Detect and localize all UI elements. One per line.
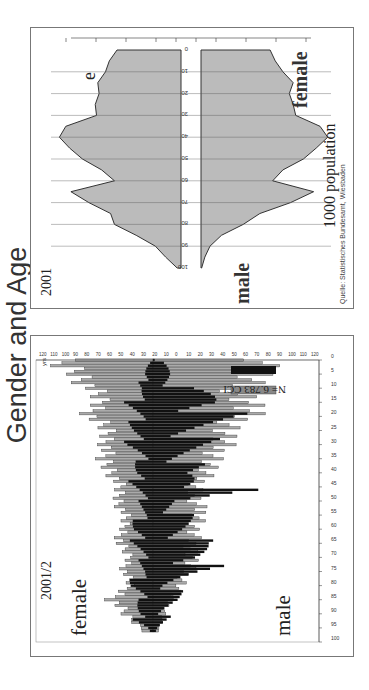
svg-text:25: 25	[331, 424, 337, 430]
svg-text:100: 100	[177, 264, 188, 270]
svg-text:110: 110	[300, 352, 308, 357]
x-axis-label: 1000 population	[321, 124, 339, 228]
svg-text:N= 6.783 CCI: N= 6.783 CCI	[223, 384, 286, 396]
svg-text:60: 60	[107, 352, 113, 357]
left-age-unit: yrs	[41, 358, 47, 366]
svg-text:20: 20	[331, 409, 337, 415]
svg-text:5: 5	[331, 367, 334, 373]
svg-text:100: 100	[62, 352, 70, 357]
svg-text:40: 40	[331, 466, 337, 472]
svg-text:120: 120	[39, 352, 47, 357]
left-female-label: female	[67, 579, 92, 636]
svg-text:80: 80	[84, 352, 90, 357]
svg-text:90: 90	[331, 607, 337, 613]
right-female-label: female	[289, 51, 312, 108]
svg-text:45: 45	[331, 480, 337, 486]
svg-text:70: 70	[181, 199, 188, 205]
right-chart-panel: 1009080706050403020100 2001 e male femal…	[30, 27, 354, 309]
svg-text:95: 95	[331, 621, 337, 627]
svg-text:0: 0	[184, 46, 188, 52]
svg-text:20: 20	[152, 352, 158, 357]
svg-text:30: 30	[181, 111, 188, 117]
svg-text:120: 120	[311, 352, 319, 357]
svg-text:80: 80	[181, 220, 188, 226]
svg-text:55: 55	[331, 508, 337, 514]
svg-text:50: 50	[331, 494, 337, 500]
right-male-label: male	[231, 263, 254, 304]
svg-text:90: 90	[73, 352, 79, 357]
left-chart-panel: 1009590858075706560555045403530252015105…	[30, 335, 354, 657]
svg-text:30: 30	[331, 438, 337, 444]
svg-text:15: 15	[331, 395, 337, 401]
chart-canvas: Gender and Age 1009590858075706560555045…	[0, 0, 369, 690]
svg-text:60: 60	[181, 177, 188, 183]
svg-text:90: 90	[181, 242, 188, 248]
svg-text:100: 100	[288, 352, 296, 357]
svg-text:30: 30	[209, 352, 215, 357]
svg-text:40: 40	[130, 352, 136, 357]
svg-text:40: 40	[220, 352, 226, 357]
source-note: Quelle: Statistisches Bundesamt, Wiesbad…	[339, 164, 346, 304]
svg-text:75: 75	[331, 565, 337, 571]
svg-text:60: 60	[243, 352, 249, 357]
svg-text:0: 0	[175, 352, 178, 357]
svg-text:10: 10	[186, 352, 192, 357]
page-title: Gender and Age	[2, 0, 33, 690]
svg-text:60: 60	[331, 522, 337, 528]
svg-text:70: 70	[96, 352, 102, 357]
left-male-label: male	[271, 595, 296, 636]
svg-text:70: 70	[331, 550, 337, 556]
svg-text:85: 85	[331, 593, 337, 599]
panel-letter: e	[79, 72, 100, 80]
svg-text:30: 30	[141, 352, 147, 357]
svg-text:10: 10	[181, 68, 188, 74]
svg-text:50: 50	[118, 352, 124, 357]
svg-text:50: 50	[181, 155, 188, 161]
left-year-label: 2001/2	[39, 561, 55, 600]
svg-text:80: 80	[266, 352, 272, 357]
svg-text:35: 35	[331, 452, 337, 458]
svg-text:110: 110	[50, 352, 58, 357]
svg-text:90: 90	[277, 352, 283, 357]
svg-text:10: 10	[331, 381, 337, 387]
svg-text:65: 65	[331, 536, 337, 542]
right-year-label: 2001	[39, 268, 55, 296]
svg-text:20: 20	[198, 352, 204, 357]
svg-text:50: 50	[232, 352, 238, 357]
svg-text:0: 0	[331, 353, 334, 359]
svg-text:70: 70	[254, 352, 260, 357]
svg-text:80: 80	[331, 579, 337, 585]
svg-text:10: 10	[164, 352, 170, 357]
svg-text:40: 40	[181, 133, 188, 139]
svg-text:20: 20	[181, 90, 188, 96]
svg-text:100: 100	[331, 635, 340, 641]
